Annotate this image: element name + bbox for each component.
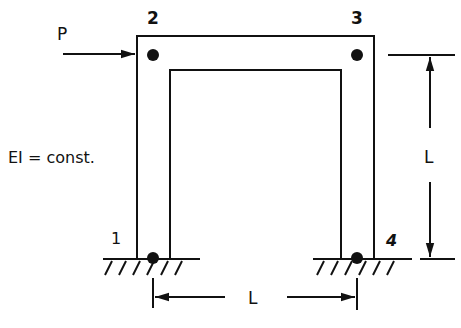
hatch	[331, 261, 338, 275]
span-dimension-label: L	[248, 288, 258, 308]
fixed-support-right	[313, 259, 412, 275]
node-label-1: 1	[111, 229, 121, 248]
portal-frame-diagram: P 2 3 1 4 EI = const. L L	[0, 0, 461, 328]
node-2-dot	[147, 49, 159, 61]
hatch	[175, 261, 182, 275]
hatch	[317, 261, 324, 275]
load-label: P	[57, 24, 67, 44]
height-dimension	[388, 55, 455, 259]
node-label-2: 2	[147, 8, 159, 28]
hatch	[345, 261, 352, 275]
height-dimension-label: L	[424, 147, 434, 167]
node-label-4: 4	[385, 231, 397, 250]
stiffness-label: EI = const.	[8, 148, 95, 167]
node-label-3: 3	[351, 8, 363, 28]
hatch	[373, 261, 380, 275]
hatch	[387, 261, 394, 275]
hatch	[105, 261, 112, 275]
hatch	[161, 261, 168, 275]
frame-inner-outline	[170, 70, 341, 259]
hatch	[119, 261, 126, 275]
node-3-dot	[351, 49, 363, 61]
hatch	[133, 261, 140, 275]
